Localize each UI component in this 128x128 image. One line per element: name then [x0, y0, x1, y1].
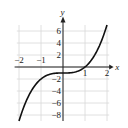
y-axis-label: y	[60, 7, 65, 17]
axes: xy	[15, 7, 120, 121]
y-tick-label: −8	[51, 110, 61, 120]
y-tick-label: 6	[57, 26, 62, 36]
y-tick-label: 2	[57, 50, 62, 60]
x-tick-label: −1	[36, 55, 46, 65]
chart: xy −2−112−8−6−4−2246	[0, 0, 128, 128]
y-tick-label: −6	[51, 98, 61, 108]
x-tick-label: 1	[83, 68, 88, 78]
x-tick-label: −2	[14, 55, 24, 65]
x-axis-label: x	[114, 62, 119, 72]
x-tick-label: 2	[105, 68, 110, 78]
y-tick-label: −2	[51, 74, 61, 84]
y-tick-label: −4	[51, 86, 61, 96]
y-tick-label: 4	[57, 38, 62, 48]
